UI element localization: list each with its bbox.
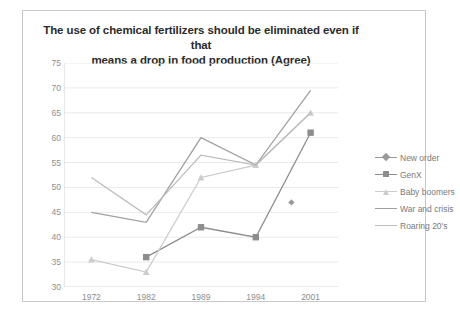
legend-swatch-icon xyxy=(375,187,397,197)
legend-swatch-icon xyxy=(375,153,397,163)
chart-title: The use of chemical fertilizers should b… xyxy=(41,23,361,68)
y-axis-tick-label: 30 xyxy=(39,282,61,292)
legend-swatch-icon xyxy=(375,204,397,214)
x-axis-tick-label: 1972 xyxy=(69,292,113,302)
plot-area xyxy=(64,63,338,287)
legend-item-war-and-crisis[interactable]: War and crisis xyxy=(375,200,460,217)
x-axis-tick-label: 1982 xyxy=(124,292,168,302)
y-axis-tick-label: 70 xyxy=(39,83,61,93)
data-point-marker xyxy=(143,254,149,260)
y-axis-tick-label: 40 xyxy=(39,232,61,242)
data-point-marker xyxy=(88,256,95,262)
series-line xyxy=(91,113,310,272)
y-axis-tick-label: 65 xyxy=(39,108,61,118)
legend-label: Baby boomers xyxy=(400,187,455,197)
y-axis-tick-label: 55 xyxy=(39,158,61,168)
legend-label: War and crisis xyxy=(400,204,454,214)
line-chart-svg xyxy=(64,63,338,287)
y-axis-tick-label: 45 xyxy=(39,207,61,217)
series-line xyxy=(91,90,310,222)
data-point-marker xyxy=(198,224,204,230)
legend-label: GenX xyxy=(400,170,422,180)
legend-item-new-order[interactable]: New order xyxy=(375,149,460,166)
chart-legend: New orderGenXBaby boomersWar and crisisR… xyxy=(375,149,460,234)
x-axis: 19721982198919942001 xyxy=(64,292,338,306)
y-axis-tick-label: 60 xyxy=(39,133,61,143)
data-point-marker xyxy=(288,199,294,205)
chart-title-line-1: The use of chemical fertilizers should b… xyxy=(43,24,358,51)
series-line xyxy=(91,113,310,215)
y-axis-tick-label: 35 xyxy=(39,257,61,267)
legend-swatch-icon xyxy=(375,170,397,180)
legend-item-roaring-20-s[interactable]: Roaring 20's xyxy=(375,217,460,234)
legend-label: Roaring 20's xyxy=(400,221,447,231)
chart-container: The use of chemical fertilizers should b… xyxy=(22,10,426,302)
legend-item-baby-boomers[interactable]: Baby boomers xyxy=(375,183,460,200)
x-axis-tick-label: 1994 xyxy=(234,292,278,302)
x-axis-tick-label: 1989 xyxy=(179,292,223,302)
legend-swatch-icon xyxy=(375,221,397,231)
x-axis-tick-label: 2001 xyxy=(289,292,333,302)
legend-label: New order xyxy=(400,153,439,163)
legend-item-genx[interactable]: GenX xyxy=(375,166,460,183)
data-point-marker xyxy=(307,129,313,135)
y-axis-tick-label: 50 xyxy=(39,182,61,192)
y-axis: 30354045505560657075 xyxy=(35,63,61,287)
y-axis-tick-label: 75 xyxy=(39,58,61,68)
data-point-marker xyxy=(253,234,259,240)
